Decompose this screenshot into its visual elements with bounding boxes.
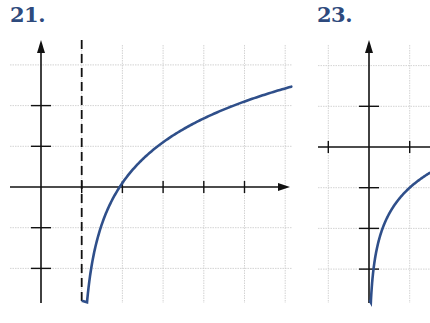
x-axis-arrow-icon (278, 183, 290, 191)
y-axis-arrow-icon (365, 40, 373, 53)
graph-23 (318, 40, 430, 303)
function-curve (83, 87, 292, 303)
grid (10, 45, 292, 303)
y-axis-arrow-icon (37, 40, 45, 53)
graph-21 (10, 40, 292, 303)
graphs-canvas (0, 0, 430, 323)
function-curve (370, 173, 430, 303)
